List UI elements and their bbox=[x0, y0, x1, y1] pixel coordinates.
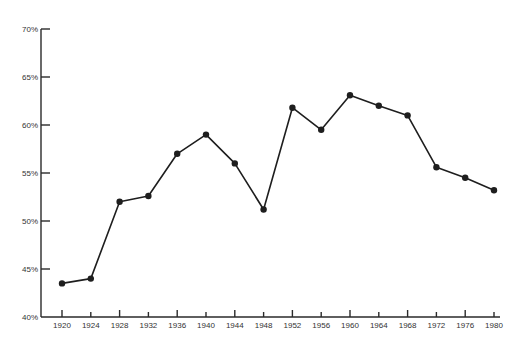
data-point bbox=[174, 151, 180, 157]
data-point bbox=[318, 127, 324, 133]
x-tick-label: 1920 bbox=[53, 321, 71, 330]
x-tick-label: 1964 bbox=[370, 321, 388, 330]
y-tick-label: 50% bbox=[22, 217, 38, 226]
y-tick-label: 65% bbox=[22, 73, 38, 82]
y-tick-label: 60% bbox=[22, 121, 38, 130]
x-tick-label: 1948 bbox=[255, 321, 273, 330]
data-series bbox=[59, 92, 497, 287]
data-point bbox=[232, 160, 238, 166]
data-point bbox=[88, 275, 94, 281]
y-axis: 40%45%50%55%60%65%70% bbox=[22, 25, 50, 322]
x-tick-label: 1960 bbox=[341, 321, 359, 330]
series-line bbox=[62, 95, 494, 283]
data-point bbox=[116, 199, 122, 205]
x-tick-label: 1944 bbox=[226, 321, 244, 330]
x-tick-label: 1980 bbox=[485, 321, 503, 330]
y-tick-label: 70% bbox=[22, 25, 38, 34]
data-point bbox=[289, 105, 295, 111]
y-tick-label: 45% bbox=[22, 265, 38, 274]
x-tick-label: 1972 bbox=[428, 321, 446, 330]
data-point bbox=[260, 206, 266, 212]
x-tick-label: 1952 bbox=[284, 321, 302, 330]
x-tick-label: 1968 bbox=[399, 321, 417, 330]
x-tick-label: 1956 bbox=[312, 321, 330, 330]
x-tick-label: 1936 bbox=[168, 321, 186, 330]
data-point bbox=[376, 103, 382, 109]
data-point bbox=[203, 131, 209, 137]
x-tick-label: 1932 bbox=[140, 321, 158, 330]
data-point bbox=[491, 187, 497, 193]
data-point bbox=[462, 175, 468, 181]
y-tick-label: 40% bbox=[22, 313, 38, 322]
x-tick-label: 1976 bbox=[456, 321, 474, 330]
x-tick-label: 1928 bbox=[111, 321, 129, 330]
y-tick-label: 55% bbox=[22, 169, 38, 178]
data-point bbox=[59, 280, 65, 286]
data-point bbox=[433, 164, 439, 170]
x-axis: 1920192419281932193619401944194819521956… bbox=[41, 310, 503, 330]
data-point bbox=[347, 92, 353, 98]
line-chart: 40%45%50%55%60%65%70% 192019241928193219… bbox=[0, 0, 520, 348]
data-point bbox=[145, 193, 151, 199]
x-tick-label: 1940 bbox=[197, 321, 215, 330]
x-tick-label: 1924 bbox=[82, 321, 100, 330]
data-point bbox=[404, 112, 410, 118]
